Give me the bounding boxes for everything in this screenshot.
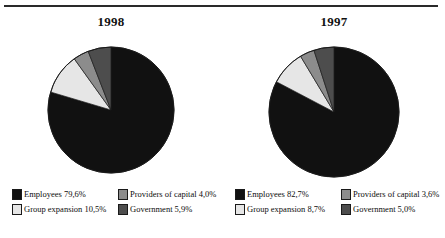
legend-row: Employees 82,7% Providers of capital 3,6…	[223, 187, 445, 202]
legend-item-group-expansion[interactable]: Group expansion 10,5%	[12, 202, 106, 217]
pie-chart-1998	[0, 45, 222, 183]
pie-svg-1997	[267, 45, 401, 179]
legend-swatch-employees	[12, 189, 22, 200]
page-title-1998: 1998	[0, 14, 222, 30]
legend-item-government[interactable]: Government 5,0%	[341, 202, 415, 217]
legend-swatch-group-expansion	[12, 204, 22, 215]
legend-row: Group expansion 10,5% Government 5,9%	[0, 202, 222, 217]
legend-label-employees: Employees 82,7%	[247, 189, 309, 200]
legend-item-providers-of-capital[interactable]: Providers of capital 3,6%	[341, 187, 439, 202]
legend-swatch-providers-of-capital	[341, 189, 351, 200]
pie-slices-1997	[269, 47, 399, 177]
legend-1997: Employees 82,7% Providers of capital 3,6…	[223, 186, 445, 226]
legend-item-providers-of-capital[interactable]: Providers of capital 4,0%	[118, 187, 216, 202]
pie-slices-1998	[48, 47, 174, 173]
legend-label-government: Government 5,9%	[130, 204, 192, 215]
legend-1998: Employees 79,6% Providers of capital 4,0…	[0, 186, 222, 226]
legend-label-group-expansion: Group expansion 10,5%	[24, 204, 106, 215]
legend-label-providers-of-capital: Providers of capital 4,0%	[130, 189, 216, 200]
legend-swatch-providers-of-capital	[118, 189, 128, 200]
chart-page: 1998 Employees 79,6% Providers of capita…	[0, 0, 445, 238]
legend-label-government: Government 5,0%	[353, 204, 415, 215]
pie-svg-1998	[46, 45, 176, 175]
panel-1997: 1997 Employees 82,7% Providers of capita…	[223, 0, 445, 238]
legend-item-employees[interactable]: Employees 82,7%	[235, 187, 309, 202]
legend-swatch-government	[118, 204, 128, 215]
legend-swatch-government	[341, 204, 351, 215]
legend-item-government[interactable]: Government 5,9%	[118, 202, 192, 217]
legend-row: Employees 79,6% Providers of capital 4,0…	[0, 187, 222, 202]
legend-label-providers-of-capital: Providers of capital 3,6%	[353, 189, 439, 200]
page-title-1997: 1997	[223, 14, 445, 30]
legend-item-group-expansion[interactable]: Group expansion 8,7%	[235, 202, 325, 217]
legend-swatch-employees	[235, 189, 245, 200]
legend-item-employees[interactable]: Employees 79,6%	[12, 187, 86, 202]
legend-label-employees: Employees 79,6%	[24, 189, 86, 200]
pie-chart-1997	[223, 45, 445, 183]
legend-swatch-group-expansion	[235, 204, 245, 215]
panel-1998: 1998 Employees 79,6% Providers of capita…	[0, 0, 222, 238]
legend-row: Group expansion 8,7% Government 5,0%	[223, 202, 445, 217]
legend-label-group-expansion: Group expansion 8,7%	[247, 204, 325, 215]
